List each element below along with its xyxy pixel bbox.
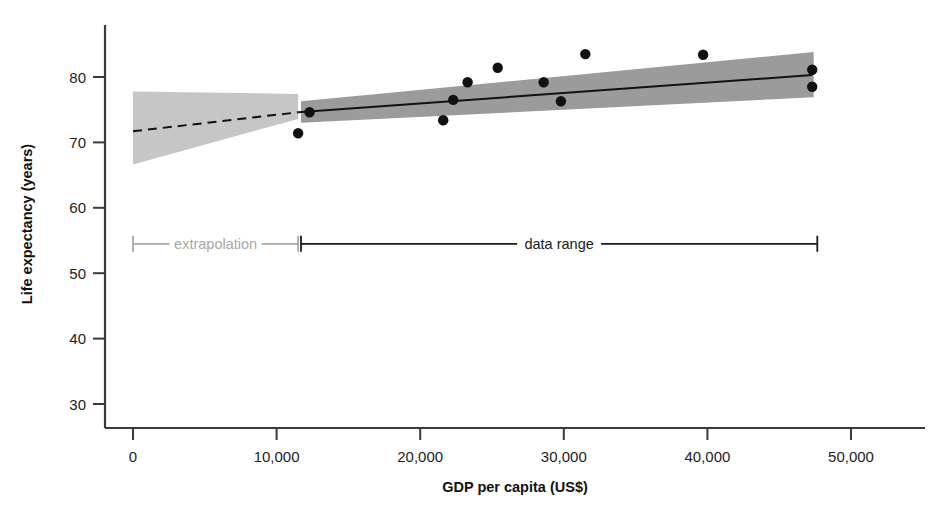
data-point: [807, 82, 817, 92]
data-point: [448, 95, 458, 105]
data-point: [493, 63, 503, 73]
x-axis-tick-label: 0: [129, 448, 137, 465]
x-axis-tick-label: 30,000: [541, 448, 587, 465]
data-point: [556, 96, 566, 106]
data-point: [580, 49, 590, 59]
data-point: [438, 115, 448, 125]
y-axis-tick-label: 30: [69, 396, 86, 413]
y-axis-tick-label: 80: [69, 69, 86, 86]
y-axis-tick-label: 50: [69, 265, 86, 282]
x-axis-tick-label: 20,000: [397, 448, 443, 465]
y-axis-tick-label: 60: [69, 199, 86, 216]
data-point: [698, 50, 708, 60]
annotation-data-range-label: data range: [524, 236, 593, 252]
life-expectancy-gdp-scatter-chart: 304050607080 010,00020,00030,00040,00050…: [0, 0, 947, 515]
y-axis-tick-label: 70: [69, 134, 86, 151]
y-axis-title: Life expectancy (years): [19, 144, 35, 305]
x-axis-tick-label: 50,000: [828, 448, 874, 465]
data-point: [539, 77, 549, 87]
data-point: [293, 128, 303, 138]
data-point: [462, 77, 472, 87]
x-axis-tick-label: 10,000: [254, 448, 300, 465]
x-axis-title: GDP per capita (US$): [442, 479, 588, 495]
data-point: [304, 107, 314, 117]
data-point: [807, 65, 817, 75]
x-axis-tick-label: 40,000: [684, 448, 730, 465]
annotation-extrapolation-label: extrapolation: [174, 236, 257, 252]
y-axis-tick-label: 40: [69, 330, 86, 347]
chart-figure: 304050607080 010,00020,00030,00040,00050…: [0, 0, 947, 515]
